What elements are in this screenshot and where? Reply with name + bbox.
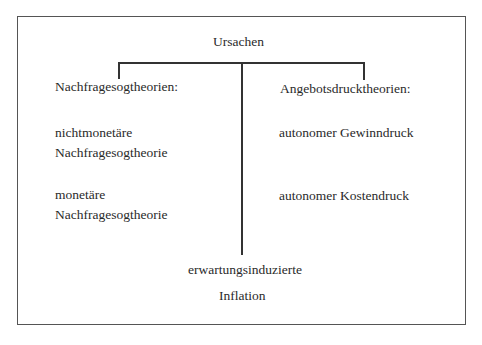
left-item-2-line2: Nachfragesogtheorie xyxy=(55,207,167,223)
left-item-1-line2: Nachfragesogtheorie xyxy=(55,145,167,161)
left-item-1-line1: nichtmonetäre xyxy=(55,125,132,141)
left-item-2-line1: monetäre xyxy=(55,187,105,203)
right-item-1: autonomer Gewinndruck xyxy=(279,125,414,141)
center-vertical-connector xyxy=(241,62,243,255)
root-label: Ursachen xyxy=(213,34,264,50)
left-drop-connector xyxy=(118,62,120,79)
center-label-line1: erwartungsinduzierte xyxy=(188,262,302,278)
right-drop-connector xyxy=(363,62,365,80)
left-branch-title: Nachfragesogtheorien: xyxy=(55,79,178,95)
center-label-line2: Inflation xyxy=(219,288,266,304)
right-item-2: autonomer Kostendruck xyxy=(279,188,409,204)
right-branch-title: Angebotsdrucktheorien: xyxy=(280,81,410,97)
